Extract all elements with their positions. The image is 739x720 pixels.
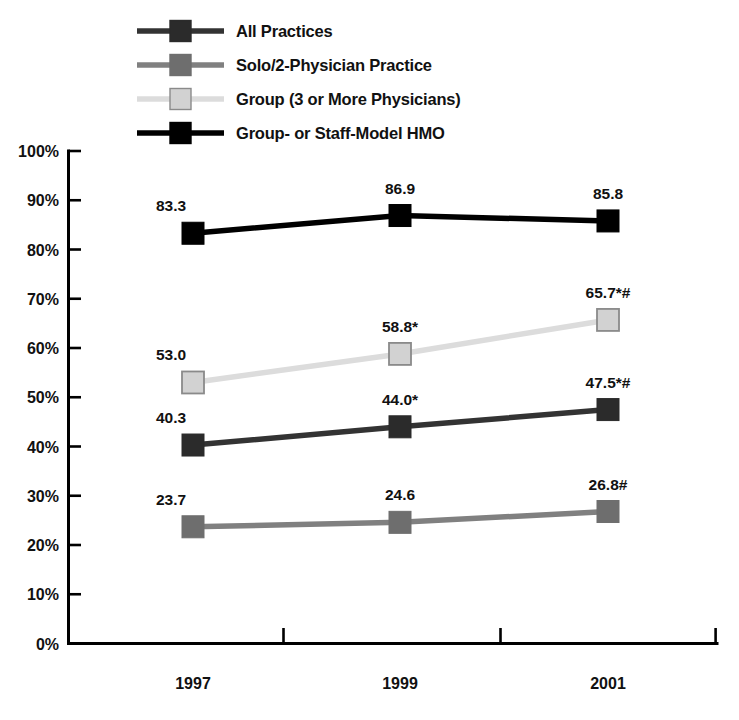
y-tick-label: 0% [36, 636, 59, 653]
y-tick-label: 70% [27, 291, 59, 308]
legend-item[interactable]: Group- or Staff-Model HMO [137, 123, 445, 144]
legend-marker [170, 21, 191, 42]
data-point-label: 65.7*# [586, 284, 631, 301]
y-tick-label: 80% [27, 242, 59, 259]
data-point-label: 47.5*# [586, 374, 631, 391]
legend-label: Group- or Staff-Model HMO [236, 124, 445, 142]
y-tick-label: 90% [27, 192, 59, 209]
legend-marker [170, 123, 191, 144]
legend-item[interactable]: Group (3 or More Physicians) [137, 89, 461, 110]
data-point-label: 40.3 [156, 409, 187, 426]
y-axis-ticks: 0%10%20%30%40%50%60%70%80%90%100% [18, 143, 81, 653]
data-point-label: 23.7 [156, 491, 186, 508]
series-marker[interactable] [597, 399, 619, 421]
series-marker[interactable] [389, 416, 411, 438]
legend-label: Group (3 or More Physicians) [236, 90, 461, 108]
data-point-label: 86.9 [385, 180, 416, 197]
series-marker[interactable] [182, 222, 204, 244]
y-tick-label: 30% [27, 488, 59, 505]
series-marker[interactable] [182, 434, 204, 456]
x-axis-tick-label: 1999 [382, 675, 418, 692]
y-tick-label: 60% [27, 340, 59, 357]
chart-container: All PracticesSolo/2-Physician PracticeGr… [0, 0, 739, 720]
legend-item[interactable]: Solo/2-Physician Practice [137, 55, 432, 76]
y-tick-label: 10% [27, 586, 59, 603]
data-point-label: 26.8# [589, 476, 628, 493]
data-point-label: 24.6 [385, 486, 416, 503]
legend-marker [170, 89, 191, 110]
chart-series: 53.058.8*65.7*# [156, 284, 631, 394]
x-axis-tick-label: 2001 [590, 675, 626, 692]
legend-marker [170, 55, 191, 76]
chart-series-group: 53.058.8*65.7*#23.724.626.8#40.344.0*47.… [156, 180, 631, 538]
chart-series: 40.344.0*47.5*# [156, 374, 631, 456]
y-tick-label: 50% [27, 389, 59, 406]
y-tick-label: 20% [27, 537, 59, 554]
chart-legend: All PracticesSolo/2-Physician PracticeGr… [137, 21, 461, 144]
legend-label: All Practices [236, 22, 332, 40]
data-point-label: 53.0 [156, 346, 186, 363]
series-marker[interactable] [597, 210, 619, 232]
data-point-label: 85.8 [593, 185, 624, 202]
legend-label: Solo/2-Physician Practice [236, 56, 432, 74]
y-tick-label: 100% [18, 143, 59, 160]
chart-series: 23.724.626.8# [156, 476, 628, 538]
x-axis-tick-label: 1997 [175, 675, 211, 692]
series-marker[interactable] [389, 205, 411, 227]
data-point-label: 83.3 [156, 197, 187, 214]
legend-item[interactable]: All Practices [137, 21, 332, 42]
chart-series: 83.386.985.8 [156, 180, 624, 245]
x-axis-tick-labels: 199719992001 [175, 675, 626, 692]
y-tick-label: 40% [27, 439, 59, 456]
series-marker[interactable] [597, 309, 619, 331]
series-marker[interactable] [597, 501, 619, 523]
series-marker[interactable] [389, 343, 411, 365]
series-marker[interactable] [389, 511, 411, 533]
series-marker[interactable] [182, 371, 204, 393]
data-point-label: 44.0* [382, 391, 419, 408]
data-point-label: 58.8* [382, 318, 419, 335]
x-axis-ticks [284, 628, 716, 644]
line-chart: All PracticesSolo/2-Physician PracticeGr… [0, 0, 739, 720]
series-marker[interactable] [182, 516, 204, 538]
